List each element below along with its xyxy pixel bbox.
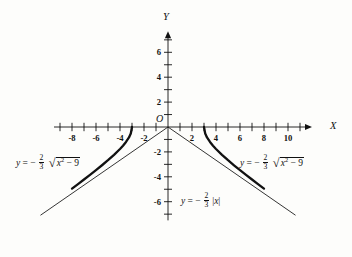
left-eq-radicand: x2 − 9 xyxy=(56,157,80,168)
x-tick-label: 6 xyxy=(238,134,242,143)
x-axis-name: X xyxy=(330,120,336,131)
y-tick-label: 2 xyxy=(146,98,161,107)
right-eq-denominator: 3 xyxy=(263,162,269,171)
equation-label-left-curve: y = − 2 3 √ x2 − 9 xyxy=(16,154,80,171)
left-eq-radical: √ x2 − 9 xyxy=(49,157,80,168)
asym-eq-lhs: y xyxy=(181,196,185,206)
radical-sign-icon: √ xyxy=(49,157,56,170)
left-eq-equals: = − xyxy=(23,158,36,168)
radical-sign-icon: √ xyxy=(273,157,280,170)
left-eq-fraction: 2 3 xyxy=(39,154,45,171)
equation-label-right-curve: y = − 2 3 √ x2 − 9 xyxy=(240,154,304,171)
asym-eq-equals: = − xyxy=(188,196,201,206)
plot-area xyxy=(0,0,352,257)
right-eq-fraction: 2 3 xyxy=(263,154,269,171)
left-eq-radicand-tail: − 9 xyxy=(64,158,79,168)
x-tick-label: -6 xyxy=(92,134,99,143)
y-tick-label: 4 xyxy=(146,73,161,82)
right-eq-lhs: y xyxy=(240,158,244,168)
right-eq-radicand-tail: − 9 xyxy=(288,158,303,168)
y-tick-label: 6 xyxy=(146,48,161,57)
x-tick-label: -8 xyxy=(68,134,75,143)
right-eq-equals: = − xyxy=(247,158,260,168)
hyperbola-figure: X Y O -8-6-4-2246810642-2-4-6 y = − 2 3 … xyxy=(0,0,352,257)
x-tick-label: 4 xyxy=(214,134,218,143)
right-eq-radical: √ x2 − 9 xyxy=(273,157,304,168)
x-tick-label: -2 xyxy=(140,134,147,143)
x-axis-arrow-icon xyxy=(305,124,312,130)
y-tick-label: -6 xyxy=(146,197,161,206)
right-eq-numerator: 2 xyxy=(263,154,269,162)
origin-label: O xyxy=(156,113,163,124)
asym-eq-abs-close: | xyxy=(218,196,220,206)
asym-eq-denominator: 3 xyxy=(204,200,210,209)
y-axis-name: Y xyxy=(163,11,169,22)
right-eq-radicand: x2 − 9 xyxy=(280,157,304,168)
x-tick-label: 8 xyxy=(262,134,266,143)
left-eq-lhs: y xyxy=(16,158,20,168)
left-eq-denominator: 3 xyxy=(39,162,45,171)
x-tick-label: 2 xyxy=(190,134,194,143)
y-tick-label: -2 xyxy=(146,148,161,157)
x-tick-label: 10 xyxy=(284,134,293,143)
equation-label-asymptote: y = − 2 3 |x| xyxy=(181,192,220,209)
y-axis-arrow-icon xyxy=(165,31,171,38)
y-tick-label: -4 xyxy=(146,173,161,182)
asym-eq-numerator: 2 xyxy=(204,192,210,200)
left-eq-numerator: 2 xyxy=(39,154,45,162)
asym-eq-fraction: 2 3 xyxy=(204,192,210,209)
x-tick-label: -4 xyxy=(116,134,123,143)
